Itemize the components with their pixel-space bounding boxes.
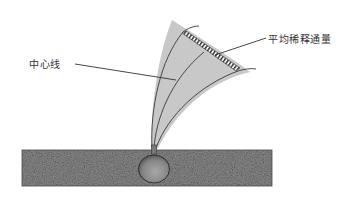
source-sphere — [139, 155, 170, 183]
centerline-label: 中心线 — [29, 56, 61, 71]
source-stem — [152, 145, 157, 154]
flux-leader-line — [215, 38, 266, 55]
average-dilution-flux-label: 平均稀释通量 — [268, 31, 331, 46]
plume — [152, 20, 250, 148]
